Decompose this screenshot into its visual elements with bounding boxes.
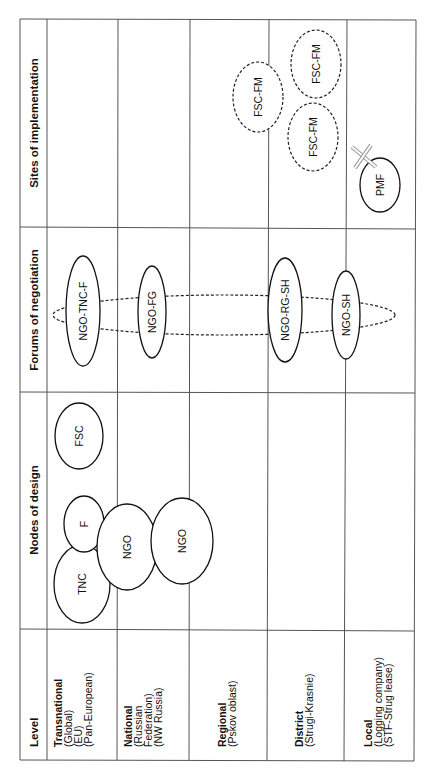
level-transnational: Transnational (Global) (EU) (Pan-Europea…: [52, 672, 94, 747]
level-district: District (Strugi-Krasnie): [293, 673, 315, 747]
level-detail: (Pskov oblast): [226, 680, 238, 747]
level-regional: Regional (Pskov oblast): [216, 680, 238, 747]
site-pmf: PMF: [360, 158, 400, 212]
svg-text:F: F: [78, 521, 90, 527]
header-forums-of-negotiation: Forums of negotiation: [28, 249, 40, 370]
header-sites-of-implementation: Sites of implementation: [28, 58, 40, 188]
svg-text:FSC-FM: FSC-FM: [307, 117, 319, 157]
level-detail: (Pan-European): [82, 672, 94, 747]
node-ngo-1: NGO: [97, 504, 157, 590]
site-fsc-fm-2: FSC-FM: [291, 30, 341, 98]
svg-text:PMF: PMF: [374, 174, 386, 196]
svg-text:FSC: FSC: [73, 425, 85, 446]
svg-text:NGO-SH: NGO-SH: [340, 294, 352, 336]
site-fsc-fm-3: FSC-FM: [288, 103, 338, 171]
level-national: National (Russian Federation) (NW Russia…: [122, 688, 164, 748]
svg-text:FSC-FM: FSC-FM: [252, 77, 264, 117]
svg-text:NGO-TNC-F: NGO-TNC-F: [77, 282, 89, 341]
svg-text:FSC-FM: FSC-FM: [310, 44, 322, 84]
forest-governance-diagram: Sites of implementation Forums of negoti…: [0, 0, 436, 783]
level-labels: Transnational (Global) (EU) (Pan-Europea…: [52, 657, 394, 747]
svg-text:NGO: NGO: [121, 535, 133, 559]
site-fsc-fm-1: FSC-FM: [233, 62, 283, 132]
level-local: Local (Logging company) (STF-Strug lease…: [362, 657, 394, 747]
column-headers: Sites of implementation Forums of negoti…: [28, 58, 40, 747]
node-ngo-2: NGO: [151, 498, 213, 584]
forum-ngo-sh: NGO-SH: [332, 271, 360, 359]
level-detail: (Strugi-Krasnie): [303, 673, 315, 747]
level-detail: (STF-Strug lease): [382, 664, 394, 747]
node-fsc: FSC: [55, 403, 103, 469]
forum-ngo-tnc-f: NGO-TNC-F: [66, 256, 100, 366]
forum-ngo-rg-sh: NGO-RG-SH: [268, 258, 302, 362]
table-grid: [20, 19, 416, 761]
header-nodes-of-design: Nodes of design: [28, 465, 40, 554]
header-level: Level: [28, 718, 40, 747]
level-detail: (NW Russia): [152, 688, 164, 748]
svg-text:NGO-FG: NGO-FG: [146, 291, 158, 333]
forums-of-negotiation: NGO-TNC-F NGO-FG NGO-RG-SH NGO-SH: [53, 256, 395, 366]
forum-ngo-fg: NGO-FG: [138, 266, 166, 358]
cross-icon: [352, 145, 376, 168]
sites-of-implementation: FSC-FM FSC-FM FSC-FM PMF: [233, 30, 400, 212]
svg-text:NGO-RG-SH: NGO-RG-SH: [279, 279, 291, 340]
svg-text:TNC: TNC: [76, 573, 88, 595]
svg-text:NGO: NGO: [176, 529, 188, 553]
